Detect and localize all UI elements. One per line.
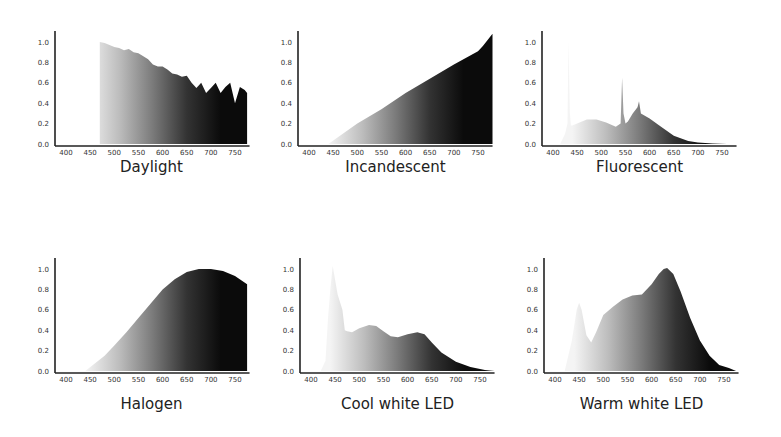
spectrum-plot: 0.00.20.40.60.81.04004505005506006507007… — [0, 0, 781, 437]
spectrum-area — [565, 268, 736, 371]
x-tick-label: 750 — [717, 376, 730, 384]
x-tick-label: 700 — [693, 376, 706, 384]
y-tick-label: 0.6 — [527, 306, 539, 314]
x-tick-label: 500 — [597, 376, 610, 384]
x-tick-label: 650 — [669, 376, 682, 384]
x-tick-label: 450 — [572, 376, 585, 384]
x-tick-label: 400 — [548, 376, 561, 384]
x-tick-label: 600 — [645, 376, 658, 384]
x-tick-label: 550 — [621, 376, 634, 384]
y-tick-label: 0.4 — [527, 327, 539, 335]
y-tick-label: 0.2 — [527, 347, 538, 355]
y-tick-label: 1.0 — [527, 266, 538, 274]
y-tick-label: 0.8 — [527, 286, 538, 294]
chart-title: Warm white LED — [544, 395, 739, 413]
y-tick-label: 0.0 — [527, 368, 538, 376]
